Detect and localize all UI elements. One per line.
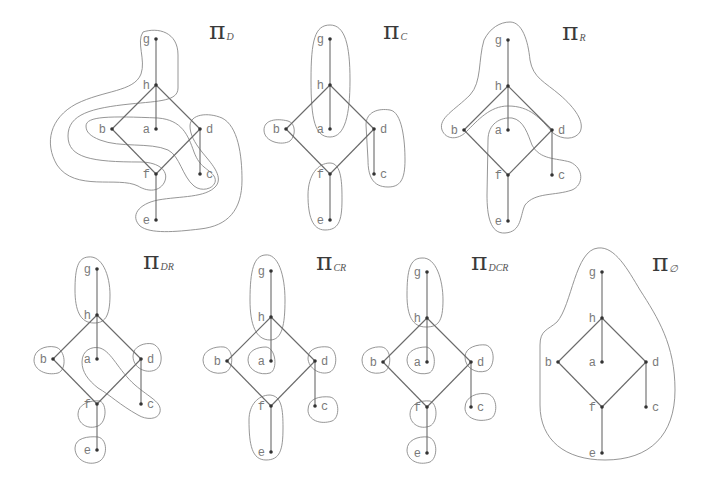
partition-lattice-figure: ghbadfceπDghbadfceπCghbadfceπRghbadfceπD… bbox=[0, 0, 710, 487]
node-label-g: g bbox=[317, 33, 324, 47]
partition-block-ghbadfce bbox=[540, 248, 675, 460]
node-h-dot bbox=[600, 316, 604, 320]
panel-title: πDR bbox=[143, 246, 174, 275]
node-f-dot bbox=[269, 404, 273, 408]
node-b-dot bbox=[225, 359, 229, 363]
node-f-dot bbox=[600, 405, 604, 409]
node-label-f: f bbox=[414, 401, 421, 415]
node-g-dot bbox=[425, 270, 429, 274]
node-label-a: a bbox=[84, 353, 91, 367]
node-label-c: c bbox=[321, 400, 328, 414]
node-label-g: g bbox=[143, 33, 150, 47]
node-g-dot bbox=[269, 269, 273, 273]
node-label-e: e bbox=[317, 214, 324, 228]
node-a-dot bbox=[154, 127, 158, 131]
node-f-dot bbox=[95, 402, 99, 406]
node-c-dot bbox=[139, 402, 143, 406]
node-label-g: g bbox=[84, 263, 91, 277]
node-label-h: h bbox=[317, 79, 324, 93]
node-a-dot bbox=[328, 127, 332, 131]
title-subscript: D bbox=[225, 31, 234, 42]
node-h-dot bbox=[328, 83, 332, 87]
partition-block-gh bbox=[250, 255, 285, 340]
node-e-dot bbox=[95, 448, 99, 452]
panel-pi-C: ghbadfceπC bbox=[264, 16, 407, 230]
node-c-dot bbox=[372, 172, 376, 176]
partition-block-gh bbox=[75, 257, 110, 323]
node-label-c: c bbox=[147, 398, 154, 412]
node-label-d: d bbox=[477, 356, 484, 370]
node-label-f: f bbox=[258, 400, 265, 414]
panel-pi-D: ghbadfceπD bbox=[50, 16, 242, 232]
partition-block-e bbox=[407, 437, 436, 463]
node-label-d: d bbox=[652, 356, 659, 370]
node-label-b: b bbox=[40, 353, 47, 367]
partition-block-f bbox=[78, 401, 105, 427]
node-label-b: b bbox=[370, 356, 377, 370]
node-label-f: f bbox=[589, 401, 596, 415]
panel-pi-empty: ghbadfceπ∅ bbox=[540, 248, 679, 461]
node-label-c: c bbox=[652, 401, 659, 415]
node-label-b: b bbox=[273, 123, 280, 137]
node-label-e: e bbox=[258, 446, 265, 460]
node-g-dot bbox=[328, 37, 332, 41]
panel-title: πD bbox=[209, 16, 234, 45]
panel-title: πCR bbox=[316, 247, 346, 276]
panel-title: πDCR bbox=[471, 247, 508, 276]
node-e-dot bbox=[506, 219, 510, 223]
title-subscript: CR bbox=[333, 262, 346, 273]
node-f-dot bbox=[425, 405, 429, 409]
panel-pi-R: ghbadfceπR bbox=[441, 17, 585, 233]
node-h-dot bbox=[154, 83, 158, 87]
node-label-g: g bbox=[258, 265, 265, 279]
node-d-dot bbox=[313, 359, 317, 363]
edge-h-d bbox=[330, 85, 374, 129]
node-label-a: a bbox=[317, 123, 324, 137]
pi-symbol: π bbox=[143, 246, 159, 275]
node-c-dot bbox=[644, 405, 648, 409]
node-label-f: f bbox=[495, 169, 502, 183]
node-label-b: b bbox=[214, 355, 221, 369]
pi-symbol: π bbox=[562, 17, 578, 46]
node-b-dot bbox=[51, 357, 55, 361]
node-label-f: f bbox=[143, 168, 150, 182]
edge-d-f bbox=[427, 362, 471, 407]
node-b-dot bbox=[462, 128, 466, 132]
node-label-e: e bbox=[84, 444, 91, 458]
node-c-dot bbox=[550, 173, 554, 177]
node-label-d: d bbox=[147, 353, 154, 367]
title-subscript: DR bbox=[159, 261, 173, 272]
node-label-g: g bbox=[414, 266, 421, 280]
partition-block-ghbd bbox=[441, 22, 581, 138]
partition-block-fe bbox=[249, 395, 283, 460]
node-b-dot bbox=[110, 127, 114, 131]
node-d-dot bbox=[139, 357, 143, 361]
node-label-h: h bbox=[258, 311, 265, 325]
node-a-dot bbox=[600, 360, 604, 364]
title-subscript: C bbox=[400, 31, 407, 42]
node-a-dot bbox=[95, 357, 99, 361]
node-d-dot bbox=[198, 127, 202, 131]
edge-h-d bbox=[271, 317, 315, 361]
node-e-dot bbox=[269, 450, 273, 454]
edge-d-f bbox=[602, 362, 646, 407]
pi-symbol: π bbox=[383, 16, 399, 45]
partition-block-fe bbox=[308, 163, 342, 230]
node-label-g: g bbox=[495, 34, 502, 48]
node-label-f: f bbox=[84, 398, 91, 412]
edge-d-f bbox=[97, 359, 141, 404]
pi-symbol: π bbox=[316, 247, 332, 276]
node-label-h: h bbox=[495, 80, 502, 94]
node-label-e: e bbox=[495, 215, 502, 229]
node-g-dot bbox=[154, 37, 158, 41]
node-f-dot bbox=[506, 173, 510, 177]
panel-pi-DCR: ghbadfceπDCR bbox=[362, 247, 508, 463]
node-label-h: h bbox=[414, 312, 421, 326]
node-label-e: e bbox=[589, 447, 596, 461]
node-label-a: a bbox=[414, 356, 421, 370]
panel-title: π∅ bbox=[652, 248, 679, 277]
node-label-h: h bbox=[84, 309, 91, 323]
pi-symbol: π bbox=[471, 247, 487, 276]
node-label-a: a bbox=[495, 124, 502, 138]
edge-h-d bbox=[97, 315, 141, 359]
